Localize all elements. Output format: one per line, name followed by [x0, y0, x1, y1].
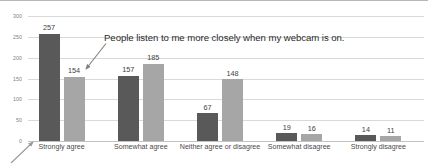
- x-axis-category-label: Strongly disagree: [351, 143, 406, 151]
- webcam-callout-text: People listen to me more closely when my…: [104, 32, 344, 43]
- bar-value-label: 67: [203, 103, 211, 112]
- y-axis-tick-50: 50: [16, 117, 22, 123]
- top-divider: [0, 0, 428, 1]
- bar[interactable]: [39, 34, 60, 141]
- bar[interactable]: [118, 76, 139, 141]
- x-axis-category-labels: Strongly agreeSomewhat agreeNeither agre…: [28, 143, 424, 157]
- gridline-0: [28, 141, 424, 142]
- gridline-300: [28, 16, 424, 17]
- bar[interactable]: [64, 77, 85, 141]
- bar-value-label: 154: [68, 66, 80, 75]
- bar-value-label: 14: [362, 125, 370, 134]
- bar-value-label: 185: [147, 53, 159, 62]
- bar-value-label: 11: [387, 126, 395, 135]
- y-axis-tick-300: 300: [13, 13, 22, 19]
- y-axis-tick-250: 250: [13, 34, 22, 40]
- x-axis-category-label: Somewhat agree: [114, 143, 168, 151]
- bar[interactable]: [301, 134, 322, 141]
- bar-value-label: 16: [308, 124, 316, 133]
- bar[interactable]: [197, 113, 218, 141]
- bar-value-label: 148: [226, 69, 238, 78]
- bar-chart: 050100150200250300 257154157185671481916…: [0, 0, 428, 165]
- bar[interactable]: [143, 64, 164, 141]
- y-axis-tick-150: 150: [13, 76, 22, 82]
- y-axis-tick-100: 100: [13, 96, 22, 102]
- x-axis-category-label: Neither agree or disagree: [180, 143, 260, 151]
- bar-value-label: 157: [122, 65, 134, 74]
- x-axis-category-label: Somewhat disagree: [268, 143, 331, 151]
- bar-value-label: 257: [43, 23, 55, 32]
- bar[interactable]: [276, 133, 297, 141]
- bar[interactable]: [380, 136, 401, 141]
- y-axis-tick-200: 200: [13, 55, 22, 61]
- y-axis: 050100150200250300: [0, 16, 26, 141]
- x-axis-category-label: Strongly agree: [39, 143, 85, 151]
- y-axis-tick-0: 0: [19, 138, 22, 144]
- bar[interactable]: [222, 79, 243, 141]
- gridline-200: [28, 58, 424, 59]
- bar-value-label: 19: [283, 123, 291, 132]
- bar[interactable]: [355, 135, 376, 141]
